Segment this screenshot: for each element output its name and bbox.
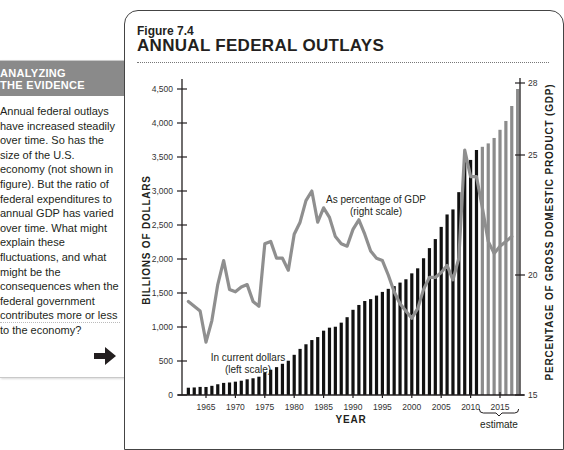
right-tick-label: 15 bbox=[528, 390, 538, 400]
outlay-bar bbox=[340, 323, 343, 395]
outlay-bar bbox=[440, 227, 443, 395]
estimate-label: estimate bbox=[480, 419, 518, 430]
outlay-bar bbox=[228, 382, 231, 395]
outlay-bar bbox=[363, 301, 366, 395]
left-tick-label: 3,000 bbox=[152, 186, 174, 196]
outlay-bar bbox=[304, 344, 307, 395]
right-axis-title: PERCENTAGE OF GROSS DOMESTIC PRODUCT (GD… bbox=[544, 84, 555, 381]
outlay-bar bbox=[322, 331, 325, 395]
outlay-bar bbox=[393, 286, 396, 395]
x-tick-label: 2010 bbox=[461, 402, 480, 412]
x-tick-label: 1995 bbox=[373, 402, 392, 412]
estimate-bar bbox=[481, 147, 484, 395]
outlay-bar bbox=[369, 299, 372, 395]
left-tick-label: 1,500 bbox=[152, 288, 174, 298]
outlay-bar bbox=[316, 337, 319, 395]
outlay-bar bbox=[375, 296, 378, 395]
outlay-bar bbox=[298, 349, 301, 395]
x-tick-label: 1970 bbox=[226, 402, 245, 412]
outlay-bar bbox=[199, 387, 202, 395]
estimate-bar bbox=[516, 89, 519, 395]
outlay-bar bbox=[469, 160, 472, 395]
left-tick-label: 4,000 bbox=[152, 118, 174, 128]
left-tick-label: 0 bbox=[168, 390, 173, 400]
outlay-bar bbox=[216, 384, 219, 395]
outlay-bar bbox=[293, 355, 296, 395]
right-tick-label: 28 bbox=[528, 78, 538, 88]
outlay-bar bbox=[310, 340, 313, 395]
outlay-bar bbox=[281, 364, 284, 395]
outlay-bar bbox=[357, 305, 360, 395]
estimate-bar bbox=[504, 121, 507, 395]
x-tick-label: 2015 bbox=[491, 402, 510, 412]
left-tick-label: 2,500 bbox=[152, 220, 174, 230]
outlay-bar bbox=[187, 388, 190, 395]
left-tick-label: 2,000 bbox=[152, 254, 174, 264]
x-tick-label: 1965 bbox=[197, 402, 216, 412]
outlay-bar bbox=[428, 248, 431, 395]
estimate-bar bbox=[510, 106, 513, 395]
line-annotation-scale: (right scale) bbox=[350, 206, 402, 217]
x-tick-label: 2000 bbox=[402, 402, 421, 412]
outlay-bar bbox=[334, 327, 337, 395]
outlay-bar bbox=[246, 379, 249, 395]
outlay-bar bbox=[346, 317, 349, 395]
x-tick-label: 2005 bbox=[432, 402, 451, 412]
left-tick-label: 4,500 bbox=[152, 84, 174, 94]
outlay-bar bbox=[387, 289, 390, 395]
x-axis-title: YEAR bbox=[336, 414, 367, 425]
outlay-bar bbox=[222, 383, 225, 395]
estimate-bar bbox=[493, 138, 496, 395]
outlay-bar bbox=[263, 372, 266, 395]
outlay-bar bbox=[287, 361, 290, 395]
outlay-bar bbox=[275, 367, 278, 395]
right-tick-label: 25 bbox=[528, 150, 538, 160]
estimate-bar bbox=[498, 130, 501, 395]
x-tick-label: 1985 bbox=[314, 402, 333, 412]
x-tick-label: 1980 bbox=[285, 402, 304, 412]
outlay-bar bbox=[257, 377, 260, 395]
x-tick-label: 1975 bbox=[255, 402, 274, 412]
x-tick-label: 1990 bbox=[344, 402, 363, 412]
bar-annotation-scale: (left scale) bbox=[225, 364, 271, 375]
outlay-bar bbox=[240, 381, 243, 395]
bar-annotation: In current dollars bbox=[211, 352, 285, 363]
estimate-bar bbox=[487, 143, 490, 395]
right-tick-label: 20 bbox=[528, 270, 538, 280]
outlay-bar bbox=[210, 386, 213, 395]
outlay-bar bbox=[434, 239, 437, 395]
outlay-bar bbox=[445, 214, 448, 395]
outlay-bar bbox=[351, 310, 354, 395]
outlay-bar bbox=[328, 328, 331, 395]
line-annotation: As percentage of GDP bbox=[326, 194, 426, 205]
outlay-bar bbox=[404, 279, 407, 395]
left-axis-title: BILLIONS OF DOLLARS bbox=[141, 175, 152, 305]
outlay-bar bbox=[193, 387, 196, 395]
outlay-bar bbox=[410, 273, 413, 395]
outlay-bar bbox=[251, 378, 254, 395]
left-tick-label: 3,500 bbox=[152, 152, 174, 162]
left-tick-label: 500 bbox=[159, 356, 173, 366]
outlay-bar bbox=[381, 292, 384, 395]
outlay-bar bbox=[422, 258, 425, 395]
outlay-bar bbox=[416, 268, 419, 395]
left-tick-label: 1,000 bbox=[152, 322, 174, 332]
outlay-bar bbox=[451, 209, 454, 395]
